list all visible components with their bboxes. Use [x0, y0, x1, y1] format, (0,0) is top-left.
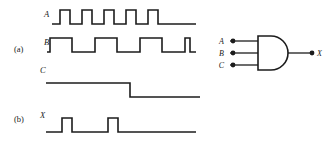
signal-label-a: A — [43, 9, 50, 19]
figure-canvas: (a) (b) A B C X — [0, 0, 331, 157]
and-gate-output-label: X — [316, 49, 323, 58]
and-gate-schematic: A B C X — [218, 36, 323, 70]
part-label-a: (a) — [14, 44, 24, 54]
and-gate-input-terminal-c — [231, 63, 236, 68]
waveform-group-b: B — [44, 37, 196, 52]
and-gate-body — [258, 36, 288, 70]
and-gate-input-terminal-b — [231, 51, 236, 56]
waveform-b — [47, 38, 196, 52]
waveform-a — [52, 10, 196, 24]
timing-diagram-figure: (a) (b) A B C X — [0, 0, 331, 157]
waveform-x — [46, 118, 196, 132]
waveform-group-a: A — [43, 9, 196, 24]
signal-label-x: X — [39, 110, 46, 120]
waveform-c — [46, 83, 200, 97]
and-gate-output-terminal — [310, 51, 315, 56]
and-gate-input-label-c: C — [219, 61, 225, 70]
and-gate-input-label-b: B — [219, 49, 224, 58]
signal-label-c: C — [40, 65, 46, 75]
and-gate-input-terminal-a — [231, 39, 236, 44]
waveform-group-c: C — [40, 65, 200, 97]
part-label-b: (b) — [14, 114, 24, 124]
and-gate-input-label-a: A — [218, 37, 224, 46]
signal-label-b: B — [44, 37, 49, 47]
waveform-group-x: X — [39, 110, 196, 132]
